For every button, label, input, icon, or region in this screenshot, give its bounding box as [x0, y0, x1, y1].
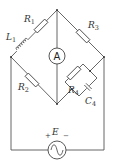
source-plus: +: [45, 132, 51, 140]
label-r3: R3: [87, 20, 99, 32]
node-bottom: [56, 103, 58, 105]
ammeter-label: A: [54, 51, 61, 62]
source-label: E: [51, 127, 59, 137]
bridge-circuit-diagram: R1 L1 R3 R2: [0, 0, 115, 160]
node-right: [103, 56, 105, 58]
node-top: [56, 9, 58, 11]
ammeter-branch: A: [49, 10, 65, 104]
label-l1: L1: [5, 32, 16, 44]
label-r4: R4: [67, 85, 79, 97]
resistor-r2: [25, 73, 39, 87]
resistor-r3: [76, 29, 90, 43]
source-minus: −: [63, 132, 69, 140]
resistor-r1: [34, 19, 48, 33]
label-c4: C4: [85, 96, 96, 108]
label-r2: R2: [17, 82, 29, 94]
label-r1: R1: [23, 14, 35, 26]
node-left: [10, 56, 12, 58]
source-loop: + E −: [11, 57, 104, 159]
node-r4c4-top: [89, 70, 91, 72]
arm-bottom-left: R2: [11, 57, 57, 104]
arm-top-left: R1 L1: [5, 10, 57, 57]
arm-top-right: R3: [57, 10, 104, 57]
inductor-l1: [15, 38, 30, 53]
resistor-r4: [67, 66, 81, 80]
arm-bottom-right: R4 C4: [57, 57, 104, 108]
